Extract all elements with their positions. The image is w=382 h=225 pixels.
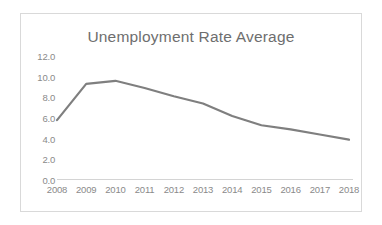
x-tick-label: 2008 [47, 184, 67, 195]
x-tick-label: 2010 [105, 184, 125, 195]
y-axis: 12.010.08.06.04.02.00.0 [21, 56, 55, 180]
x-tick-label: 2016 [280, 184, 300, 195]
y-tick-label: 2.0 [42, 154, 55, 165]
y-tick-label: 6.0 [42, 113, 55, 124]
x-tick-label: 2011 [135, 184, 155, 195]
y-tick-label: 8.0 [42, 92, 55, 103]
x-tick-label: 2009 [76, 184, 96, 195]
x-axis: 2008200920102011201220132014201520162017… [57, 184, 353, 200]
x-tick-label: 2013 [193, 184, 213, 195]
chart-title: Unemployment Rate Average [21, 28, 361, 46]
x-tick-label: 2018 [339, 184, 359, 195]
x-tick-label: 2017 [310, 184, 330, 195]
y-tick-label: 4.0 [42, 133, 55, 144]
plot-area [57, 56, 349, 180]
x-tick-label: 2015 [251, 184, 271, 195]
line-series-svg [57, 56, 349, 180]
y-tick-label: 10.0 [37, 71, 55, 82]
x-tick-label: 2012 [164, 184, 184, 195]
line-series-unemployment-rate-average [57, 81, 349, 140]
x-tick-label: 2014 [222, 184, 242, 195]
chart-container: Unemployment Rate Average 12.010.08.06.0… [20, 13, 362, 212]
y-tick-label: 12.0 [37, 51, 55, 62]
